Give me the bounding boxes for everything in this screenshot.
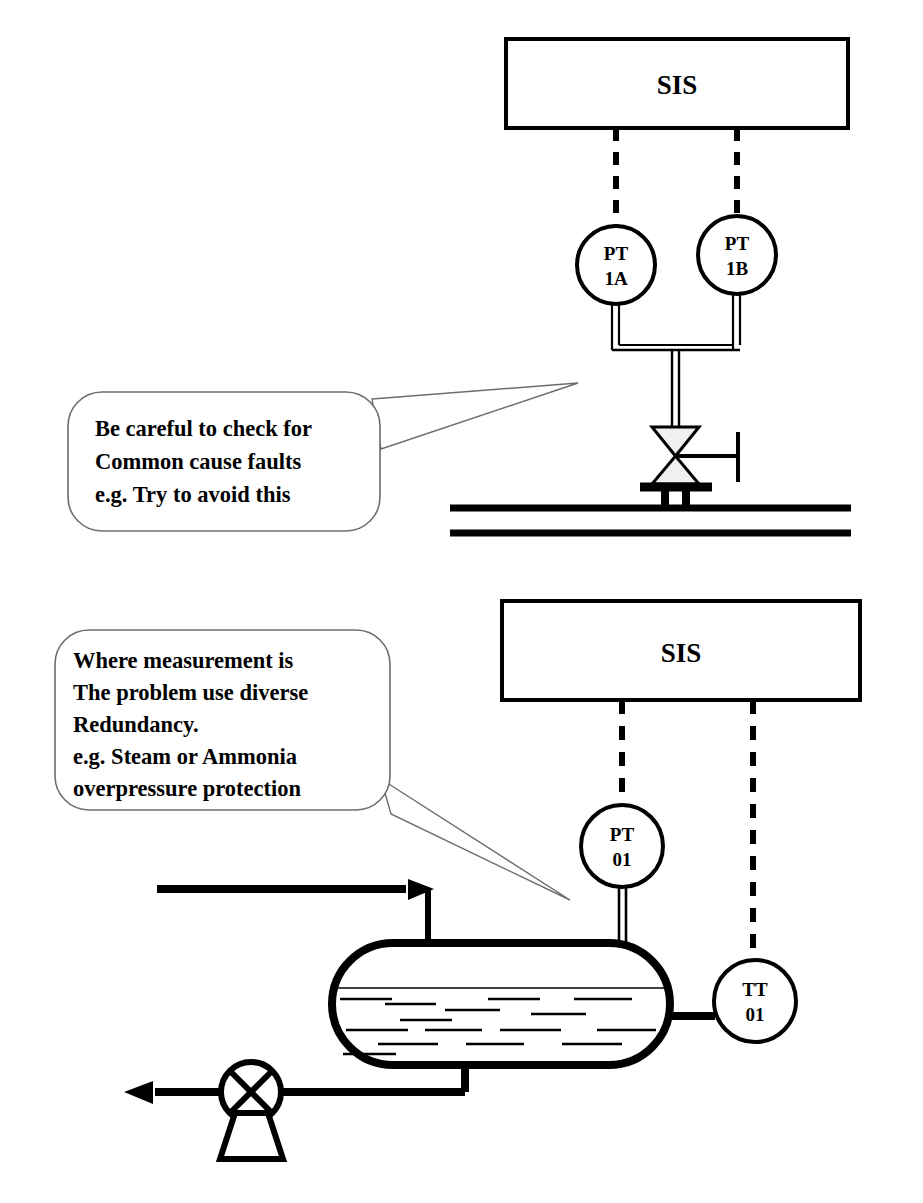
pt-1b-line1: PT xyxy=(725,233,750,254)
sis-box-top-label: SIS xyxy=(657,70,698,100)
sis-box-bottom[interactable]: SIS xyxy=(502,601,860,700)
impulse-lines-common-header xyxy=(612,293,740,426)
callout-diverse-redundancy-line-3: Redundancy. xyxy=(73,712,199,737)
transmitter-pt-01[interactable]: PT 01 xyxy=(581,805,663,887)
sis-box-bottom-label: SIS xyxy=(661,638,702,668)
transmitter-pt-1b[interactable]: PT 1B xyxy=(698,216,776,294)
callout-common-cause-line-1: Be careful to check for xyxy=(95,416,312,441)
callout-common-cause-line-3: e.g. Try to avoid this xyxy=(95,482,291,507)
pump[interactable] xyxy=(220,1062,283,1159)
vessel-shell xyxy=(332,943,670,1065)
tt-01-circle xyxy=(714,960,796,1042)
transmitter-pt-1a[interactable]: PT 1A xyxy=(577,226,655,304)
pt-1a-line1: PT xyxy=(604,243,629,264)
callout-diverse-redundancy-line-2: The problem use diverse xyxy=(73,680,308,705)
callout-diverse-redundancy-line-5: overpressure protection xyxy=(73,776,302,801)
vessel[interactable] xyxy=(332,943,670,1065)
callout-diverse-redundancy-line-1: Where measurement is xyxy=(73,648,294,673)
callout-common-cause-tail xyxy=(372,383,578,449)
diagram-canvas: SIS PT 1A PT 1B xyxy=(0,0,923,1203)
transmitter-tt-01[interactable]: TT 01 xyxy=(714,960,796,1042)
valve-body-lower xyxy=(652,456,699,484)
tt-01-line2: 01 xyxy=(746,1004,765,1025)
tt-01-line1: TT xyxy=(742,979,768,1000)
pt-01-line2: 01 xyxy=(613,849,632,870)
pt-1a-line2: 1A xyxy=(604,268,628,289)
valve-body-upper xyxy=(652,427,699,456)
pt-01-line1: PT xyxy=(610,824,635,845)
pump-base xyxy=(220,1113,283,1159)
pt-01-circle xyxy=(581,805,663,887)
process-diagram: SIS PT 1A PT 1B xyxy=(0,0,923,1203)
callout-common-cause-line-2: Common cause faults xyxy=(95,449,301,474)
valve-nozzle xyxy=(640,487,712,507)
isolation-valve[interactable] xyxy=(652,427,738,484)
pt-1a-circle xyxy=(577,226,655,304)
pt-1b-line2: 1B xyxy=(726,258,749,279)
process-pipe-top xyxy=(450,508,851,533)
callout-diverse-redundancy-line-4: e.g. Steam or Ammonia xyxy=(73,744,297,769)
pt-01-impulse-line xyxy=(619,887,626,944)
sis-box-top[interactable]: SIS xyxy=(506,39,848,128)
pt-1b-circle xyxy=(698,216,776,294)
